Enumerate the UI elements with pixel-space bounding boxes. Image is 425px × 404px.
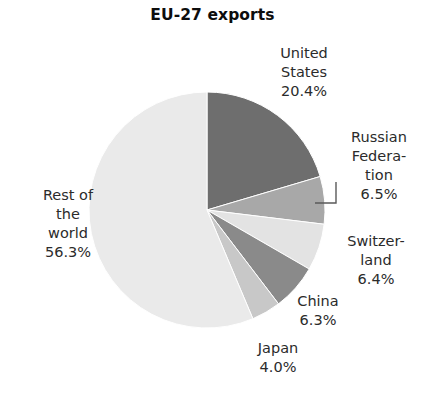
pie-label-line: Federa- [336, 147, 422, 166]
pie-label-line: world [22, 224, 114, 243]
pie-label-china: China6.3% [282, 292, 354, 330]
pie-label-line: 20.4% [258, 82, 350, 101]
pie-label-line: Switzer- [330, 232, 422, 251]
pie-label-line: 6.5% [336, 185, 422, 204]
pie-label-united-states: UnitedStates20.4% [258, 44, 350, 101]
pie-label-line: Russian [336, 128, 422, 147]
pie-label-line: China [282, 292, 354, 311]
pie-label-japan: Japan4.0% [242, 339, 314, 377]
pie-label-line: the [22, 205, 114, 224]
pie-label-line: Japan [242, 339, 314, 358]
pie-label-line: 6.4% [330, 270, 422, 289]
pie-label-russian-federation: RussianFedera-tion6.5% [336, 128, 422, 203]
pie-label-rest-of-the-world: Rest oftheworld56.3% [22, 186, 114, 261]
pie-label-line: States [258, 63, 350, 82]
pie-label-line: tion [336, 166, 422, 185]
pie-label-line: 6.3% [282, 311, 354, 330]
chart-page: EU-27 exports UnitedStates20.4% RussianF… [0, 0, 425, 404]
pie-label-line: 56.3% [22, 243, 114, 262]
pie-label-line: 4.0% [242, 358, 314, 377]
pie-label-switzerland: Switzer-land6.4% [330, 232, 422, 289]
pie-label-line: Rest of [22, 186, 114, 205]
pie-label-line: United [258, 44, 350, 63]
pie-label-line: land [330, 251, 422, 270]
